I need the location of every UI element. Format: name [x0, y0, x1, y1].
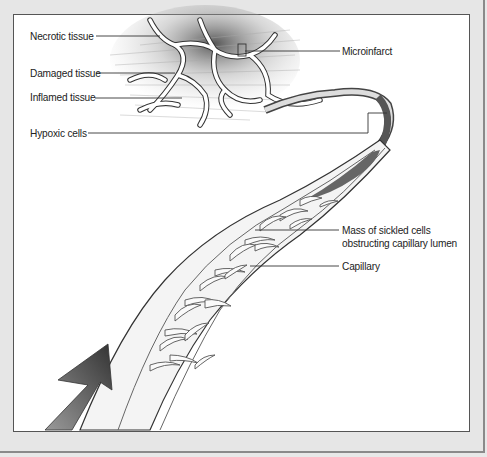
label-inflamed-tissue: Inflamed tissue: [30, 91, 95, 104]
label-necrotic-tissue: Necrotic tissue: [30, 30, 94, 43]
label-capillary: Capillary: [342, 260, 380, 273]
label-microinfarct: Microinfarct: [342, 45, 392, 58]
label-sickled-mass-line1: Mass of sickled cells: [342, 224, 431, 237]
tissue-region: [110, 5, 320, 125]
label-hypoxic-cells: Hypoxic cells: [30, 127, 87, 140]
label-damaged-tissue: Damaged tissue: [30, 67, 101, 80]
label-sickled-mass-line2: obstructing capillary lumen: [342, 237, 457, 250]
